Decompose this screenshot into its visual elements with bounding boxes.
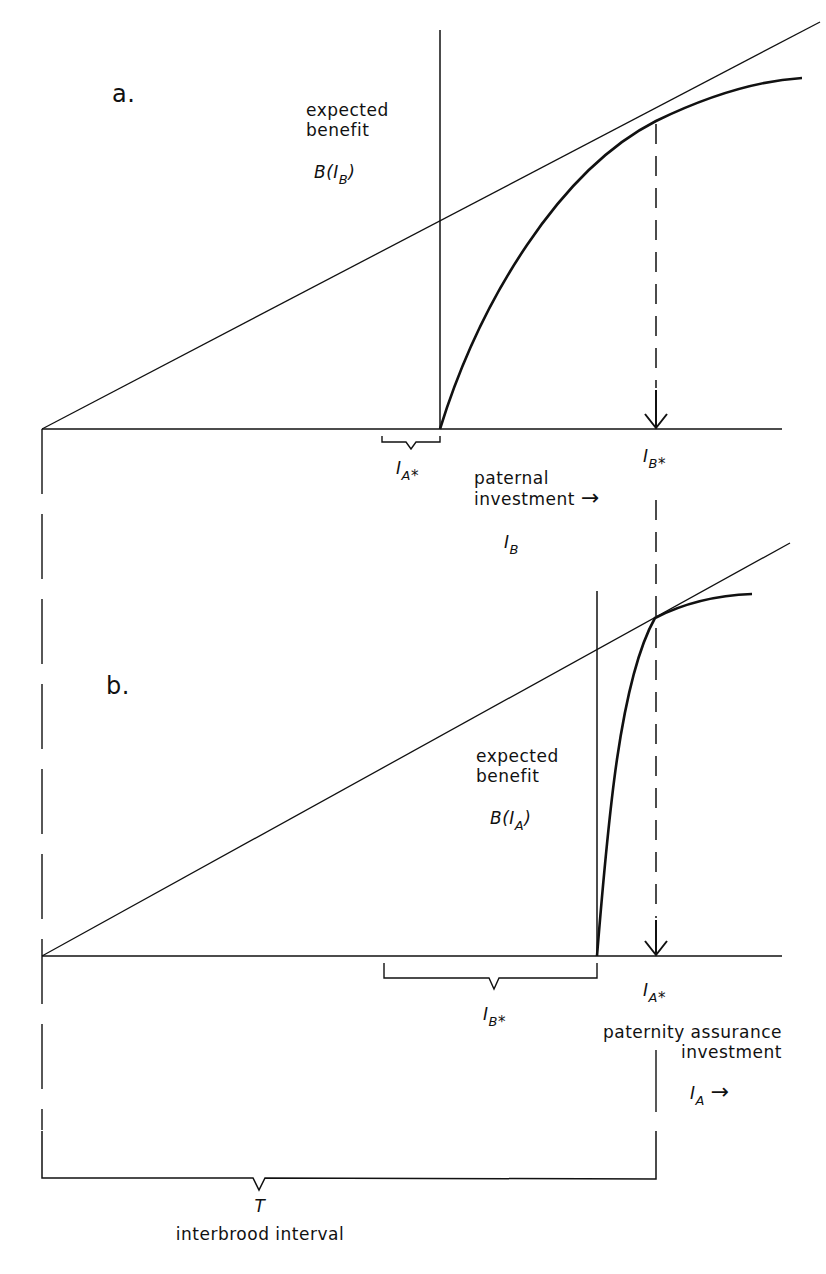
panel-b-function-label: B(IA) bbox=[490, 808, 531, 830]
var-text: I bbox=[504, 532, 510, 552]
var-text: I bbox=[643, 980, 649, 1000]
function-text: B(I bbox=[314, 162, 339, 182]
panel-b-graphics bbox=[42, 543, 790, 989]
panel-a-optimum-label: IB* bbox=[643, 446, 666, 468]
panel-a-graphics bbox=[42, 22, 820, 449]
panel-a-axis-var: IB bbox=[504, 532, 519, 554]
panel-a-bracket-label: IA* bbox=[396, 458, 419, 480]
panel-b-axis-var: IA → bbox=[690, 1082, 730, 1105]
var-subscript: A bbox=[649, 990, 658, 1005]
axis-text: investment bbox=[474, 489, 575, 509]
panel-a-axis-line2: investment → bbox=[474, 488, 600, 509]
function-close: ) bbox=[524, 808, 531, 828]
star-icon: * bbox=[658, 455, 666, 473]
panel-a-benefit-curve bbox=[440, 78, 802, 429]
var-subscript: A bbox=[696, 1093, 705, 1108]
panel-b-bracket-ib bbox=[384, 963, 597, 989]
panel-b-label: b. bbox=[106, 676, 130, 696]
dashed-guides bbox=[42, 124, 656, 1130]
panel-b-benefit-line2: benefit bbox=[476, 766, 559, 786]
right-arrow-icon: → bbox=[711, 1079, 730, 1104]
var-subscript: B bbox=[649, 456, 658, 471]
var-text: I bbox=[396, 458, 402, 478]
panel-b-tangent-line bbox=[42, 543, 790, 956]
panel-a-function-label: B(IB) bbox=[314, 162, 355, 184]
panel-b-benefit-line1: expected bbox=[476, 746, 559, 766]
panel-a-benefit-label: expected benefit bbox=[306, 100, 389, 140]
panel-a-axis-label: paternal investment → bbox=[474, 468, 600, 509]
panel-b-benefit-curve bbox=[597, 594, 752, 956]
panel-b-bracket-label: IB* bbox=[483, 1004, 506, 1026]
var-subscript: B bbox=[510, 542, 519, 557]
panel-a-benefit-line1: expected bbox=[306, 100, 389, 120]
function-subscript: B bbox=[339, 172, 348, 187]
var-subscript: A bbox=[402, 468, 411, 483]
interval-label: interbrood interval bbox=[160, 1224, 360, 1244]
var-text: I bbox=[483, 1004, 489, 1024]
star-icon: * bbox=[411, 467, 419, 485]
panel-a-benefit-line2: benefit bbox=[306, 120, 389, 140]
star-icon: * bbox=[498, 1013, 506, 1031]
interval-symbol: T bbox=[240, 1196, 280, 1216]
panel-a-label: a. bbox=[112, 84, 135, 104]
panel-a-bracket-ia bbox=[382, 436, 440, 449]
right-arrow-icon: → bbox=[581, 485, 600, 510]
panel-b-axis-label: paternity assurance investment bbox=[576, 1022, 782, 1062]
panel-b-benefit-label: expected benefit bbox=[476, 746, 559, 786]
interbrood-bracket bbox=[42, 1131, 656, 1190]
panel-a-tangent-line bbox=[42, 22, 820, 429]
panel-b-axis-line2: investment bbox=[576, 1042, 782, 1062]
panel-b-axis-line1: paternity assurance bbox=[576, 1022, 782, 1042]
function-subscript: A bbox=[515, 818, 524, 833]
var-text: I bbox=[643, 446, 649, 466]
panel-b-optimum-label: IA* bbox=[643, 980, 666, 1002]
star-icon: * bbox=[658, 989, 666, 1007]
var-subscript: B bbox=[489, 1014, 498, 1029]
function-text: B(I bbox=[490, 808, 515, 828]
function-close: ) bbox=[348, 162, 355, 182]
var-text: I bbox=[690, 1083, 696, 1103]
